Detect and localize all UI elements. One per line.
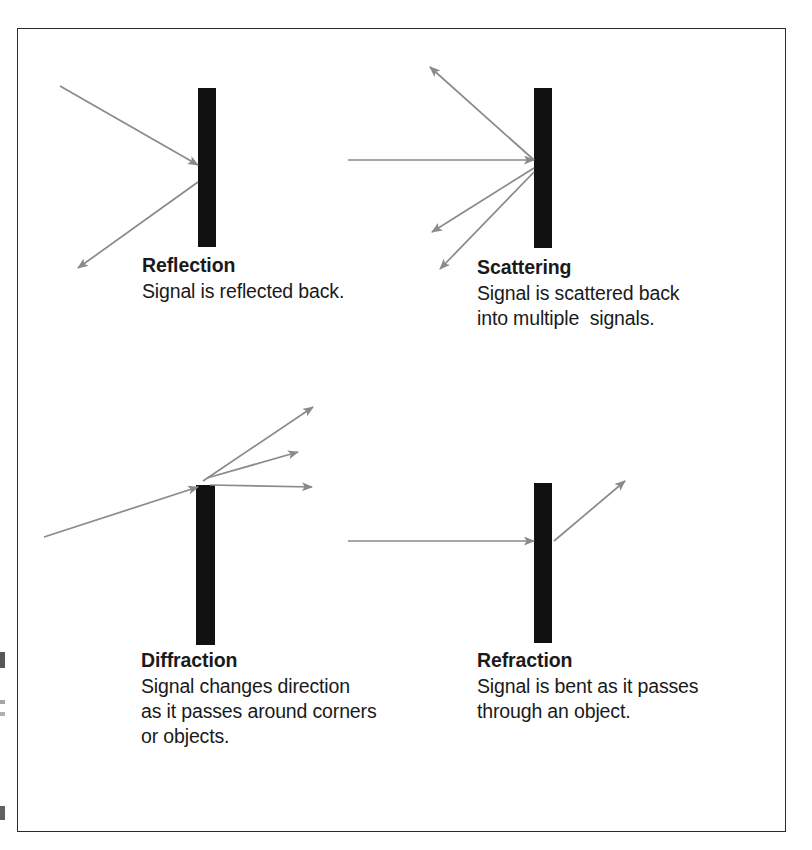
caption-body-refraction: Signal is bent as it passes through an o…: [477, 674, 698, 724]
page-edge-mark: [0, 700, 5, 704]
caption-scattering: Scattering Signal is scattered back into…: [477, 255, 679, 331]
caption-title-diffraction: Diffraction: [141, 648, 377, 672]
page-edge-mark: [0, 806, 5, 820]
caption-title-scattering: Scattering: [477, 255, 679, 279]
caption-body-scattering: Signal is scattered back into multiple s…: [477, 281, 679, 331]
page-edge-mark: [0, 712, 5, 716]
page-edge-mark: [0, 652, 5, 668]
caption-title-refraction: Refraction: [477, 648, 698, 672]
caption-reflection: Reflection Signal is reflected back.: [142, 253, 344, 304]
caption-refraction: Refraction Signal is bent as it passes t…: [477, 648, 698, 724]
caption-title-reflection: Reflection: [142, 253, 344, 277]
caption-body-reflection: Signal is reflected back.: [142, 279, 344, 304]
caption-diffraction: Diffraction Signal changes direction as …: [141, 648, 377, 749]
caption-body-diffraction: Signal changes direction as it passes ar…: [141, 674, 377, 749]
figure-root: Reflection Signal is reflected back. Sca…: [0, 0, 812, 850]
